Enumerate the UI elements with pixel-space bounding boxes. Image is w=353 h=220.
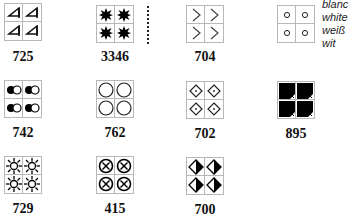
symbol-code: 762 xyxy=(85,125,145,141)
small-circle-icon xyxy=(283,11,291,19)
large-circle-icon xyxy=(98,82,114,98)
symbol-grid xyxy=(4,3,42,41)
legend-line: white xyxy=(322,11,348,24)
black-square-notched-icon xyxy=(279,83,295,99)
sun-outline-icon xyxy=(6,158,22,174)
triangle-flag-icon xyxy=(7,7,21,19)
color-legend: blanc white weiß wit xyxy=(322,0,348,50)
black-white-dot-pair-icon xyxy=(6,85,22,95)
legend-line: blanc xyxy=(322,0,348,11)
symbol-code: 3346 xyxy=(85,49,145,65)
black-star-icon xyxy=(99,8,113,22)
circled-x-icon xyxy=(98,158,114,174)
chevron-right-icon xyxy=(190,8,202,22)
symbol-code: 725 xyxy=(0,49,53,65)
dotted-separator xyxy=(147,6,151,44)
symbol-code: 702 xyxy=(175,126,235,142)
legend-line: wit xyxy=(322,37,348,50)
symbol-code: 700 xyxy=(175,202,235,218)
symbol-code: 895 xyxy=(266,126,326,142)
symbol-code: 742 xyxy=(0,125,53,141)
symbol-code: 704 xyxy=(175,49,235,65)
diamond-dot-icon xyxy=(189,84,203,98)
legend-line: weiß xyxy=(322,24,348,37)
symbol-code: 729 xyxy=(0,201,53,217)
half-filled-diamond-icon xyxy=(188,159,204,175)
symbol-code: 415 xyxy=(85,201,145,217)
